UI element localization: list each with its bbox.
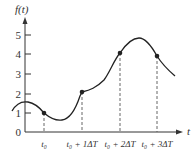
curve bbox=[12, 38, 175, 120]
x-tick-2: t₀ + 2ΔT bbox=[105, 139, 137, 149]
y-axis-label: f(t) bbox=[15, 3, 29, 16]
x-tick-labels: t₀ t₀ + 1ΔT t₀ + 2ΔT t₀ + 3ΔT bbox=[41, 139, 173, 149]
point-t0 bbox=[42, 111, 47, 116]
y-tick-2: 2 bbox=[16, 88, 22, 100]
y-tick-3: 3 bbox=[16, 68, 22, 80]
point-t0-3dt bbox=[155, 54, 160, 59]
y-tick-5: 5 bbox=[16, 29, 22, 41]
x-axis-label: t bbox=[187, 125, 191, 137]
x-tick-1: t₀ + 1ΔT bbox=[67, 139, 99, 149]
point-t0-2dt bbox=[118, 51, 123, 56]
y-tick-4: 4 bbox=[16, 48, 22, 60]
y-tick-1: 1 bbox=[16, 107, 22, 119]
y-tick-0: 0 bbox=[16, 126, 22, 138]
y-tick-labels: 0 1 2 3 4 5 bbox=[16, 29, 22, 138]
x-tick-0: t₀ bbox=[41, 139, 47, 149]
point-t0-1dt bbox=[80, 90, 85, 95]
chart: 0 1 2 3 4 5 f(t) t t₀ t₀ + 1ΔT t₀ + 2ΔT … bbox=[0, 0, 195, 155]
y-axis-arrow-icon bbox=[23, 17, 28, 24]
x-axis-arrow-icon bbox=[176, 130, 183, 135]
x-tick-3: t₀ + 3ΔT bbox=[142, 139, 174, 149]
